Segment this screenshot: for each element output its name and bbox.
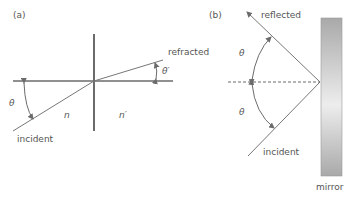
theta-bottom-arc	[252, 84, 274, 128]
reflected-ray	[247, 12, 320, 82]
theta-top-arc	[252, 37, 271, 80]
n-label: n	[64, 110, 70, 120]
theta-angle-arc	[24, 83, 33, 119]
panel-b-reflection: (b) θ θ reflected incident mirror	[209, 10, 344, 192]
incident-label: incident	[17, 134, 54, 144]
theta-bottom-label: θ	[239, 107, 245, 117]
incident-label-b: incident	[263, 147, 300, 157]
theta-prime-angle-arc	[155, 63, 157, 79]
refracted-label: refracted	[168, 47, 209, 57]
refracted-ray	[94, 60, 163, 81]
reflected-label: reflected	[261, 10, 301, 20]
incident-ray	[13, 81, 94, 131]
panel-a-label: (a)	[13, 10, 26, 20]
panel-b-label: (b)	[209, 10, 222, 20]
theta-prime-label: θ′	[162, 66, 170, 76]
mirror-label: mirror	[316, 182, 344, 192]
panel-a-refraction: (a) θ θ′ n n′ incident refracted	[9, 10, 209, 144]
mirror	[321, 18, 342, 176]
n-prime-label: n′	[119, 110, 127, 120]
optics-diagram: (a) θ θ′ n n′ incident refracted (b) θ θ…	[0, 0, 357, 200]
incident-ray-b	[248, 82, 320, 156]
theta-top-label: θ	[239, 48, 245, 58]
theta-label: θ	[9, 98, 15, 108]
